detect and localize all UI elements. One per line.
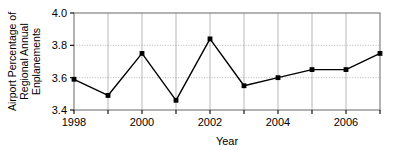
y-axis-title-line: Airport Percentage of: [6, 12, 18, 111]
data-point-marker: [174, 98, 179, 103]
data-point-marker: [242, 83, 247, 88]
x-tick-label: 2002: [198, 116, 222, 128]
data-point-marker: [378, 51, 383, 56]
data-point-marker: [344, 67, 349, 72]
y-axis: 4.03.83.63.4: [52, 7, 74, 116]
line-chart: 4.03.83.63.419982000200220042006YearAirp…: [0, 0, 393, 150]
x-tick-label: 1998: [62, 116, 86, 128]
data-point-marker: [208, 36, 213, 41]
y-tick-label: 3.8: [52, 39, 67, 51]
data-point-marker: [140, 51, 145, 56]
x-tick-label: 2006: [334, 116, 358, 128]
y-tick-label: 3.4: [52, 104, 67, 116]
chart-canvas: 4.03.83.63.419982000200220042006YearAirp…: [0, 0, 393, 150]
data-point-marker: [276, 75, 281, 80]
y-tick-label: 3.6: [52, 72, 67, 84]
y-tick-label: 4.0: [52, 7, 67, 19]
y-axis-title-line: Regional Annual: [18, 23, 30, 99]
data-point-marker: [310, 67, 315, 72]
y-axis-title-line: Enplanements: [30, 28, 42, 95]
data-point-marker: [106, 93, 111, 98]
x-axis: 19982000200220042006: [62, 110, 380, 128]
x-axis-title: Year: [216, 135, 239, 147]
y-axis-title: Airport Percentage ofRegional AnnualEnpl…: [6, 12, 42, 111]
x-tick-label: 2004: [266, 116, 290, 128]
x-tick-label: 2000: [130, 116, 154, 128]
data-point-marker: [72, 77, 77, 82]
